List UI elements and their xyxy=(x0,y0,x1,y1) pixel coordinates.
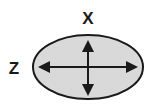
x-axis-label: X xyxy=(82,9,94,28)
ellipse-axes-diagram: X Z xyxy=(0,0,154,112)
z-axis-label: Z xyxy=(9,59,19,78)
